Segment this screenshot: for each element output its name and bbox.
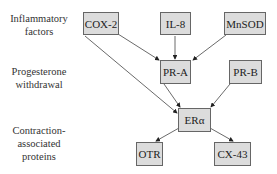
row-label-inflammatory: Inflammatory factors (0, 12, 78, 38)
edge-era-cx43 (210, 128, 233, 141)
row-label-progesterone: Progesterone withdrawal (0, 65, 78, 91)
row-label-line: withdrawal (0, 78, 78, 91)
node-mnsod: MnSOD (224, 12, 266, 35)
node-era: ERα (178, 108, 211, 132)
node-cx43: CX-43 (214, 142, 251, 166)
edge-era-otr (156, 128, 179, 141)
edge-mnsod-pra (193, 35, 226, 60)
edge-pra-era (164, 84, 180, 107)
row-label-contraction: Contraction- associated proteins (0, 124, 78, 163)
node-pra: PR-A (160, 60, 191, 84)
node-cox2: COX-2 (83, 12, 119, 35)
node-prb: PR-B (229, 60, 262, 84)
node-otr: OTR (136, 142, 163, 166)
row-label-line: factors (0, 25, 78, 38)
node-il8: IL-8 (160, 12, 191, 35)
row-label-line: Contraction- (0, 124, 78, 137)
row-label-line: Progesterone (0, 65, 78, 78)
row-label-line: associated (0, 137, 78, 150)
edge-cox2-pra (118, 34, 159, 60)
row-label-line: Inflammatory (0, 12, 78, 25)
edge-prb-era (211, 84, 230, 107)
row-label-line: proteins (0, 150, 78, 163)
